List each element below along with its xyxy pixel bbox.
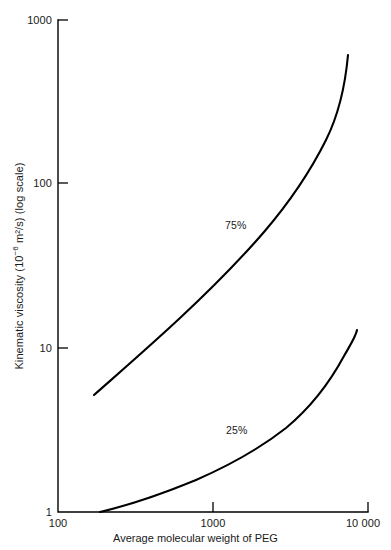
chart-plot-area [0,0,391,550]
xtick-label-100: 100 [34,517,82,529]
series-label-75-percent: 75% [225,219,247,231]
x-axis-title: Average molecular weight of PEG [0,532,391,544]
y-axis-title-exponent: −6 [11,246,20,255]
curve-75-percent [94,55,348,395]
curve-25-percent [100,330,357,512]
y-axis-title-wrapper: Kinematic viscosity (10−6 m²/s) (log sca… [10,0,28,532]
axis-spines [58,20,368,512]
xtick-label-1000: 1000 [186,517,240,529]
y-axis-title-lead: Kinematic viscosity (10 [13,255,25,369]
chart-figure: 1000 100 10 1 100 1000 10 000 75% 25% Av… [0,0,391,550]
xtick-label-10000: 10 000 [336,517,390,529]
series-label-25-percent: 25% [226,424,248,436]
y-axis-title-tail: m²/s) (log scale) [13,162,25,246]
y-axis-title: Kinematic viscosity (10−6 m²/s) (log sca… [13,162,25,369]
